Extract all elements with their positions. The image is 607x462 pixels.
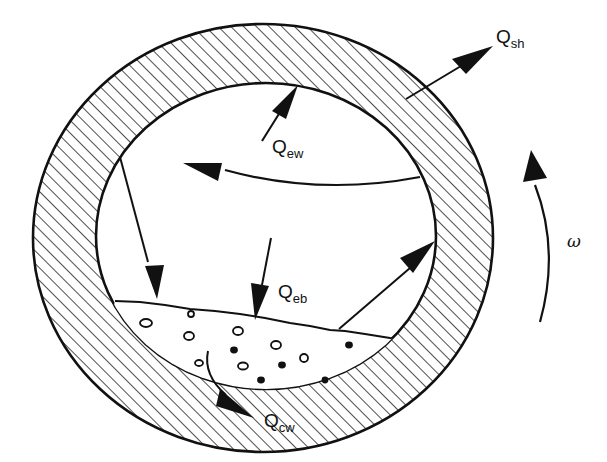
- label-q-sh: Qsh: [496, 26, 525, 51]
- label-omega: ω: [567, 231, 581, 251]
- arrow-rotation-omega: [523, 150, 549, 322]
- arrow-q-sh: [406, 46, 493, 99]
- kiln-cross-section-diagram: Qsh Qew Qeb Qcw ω: [0, 0, 607, 462]
